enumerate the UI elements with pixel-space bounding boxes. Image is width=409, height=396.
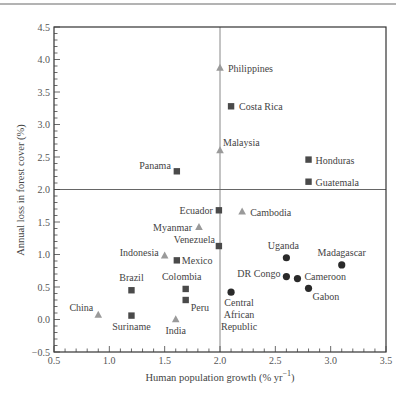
data-point-honduras: Honduras bbox=[305, 155, 354, 166]
point-label: Venezuela bbox=[174, 234, 216, 245]
x-tick-label: 1.0 bbox=[103, 355, 116, 366]
point-label: Costa Rica bbox=[239, 101, 283, 112]
data-point-mexico: Mexico bbox=[174, 255, 213, 266]
circle-marker-icon bbox=[227, 289, 234, 296]
y-axis-label: Annual loss in forest cover (%) bbox=[15, 124, 27, 256]
point-label: Guatemala bbox=[316, 177, 360, 188]
data-point-guatemala: Guatemala bbox=[305, 177, 359, 188]
data-point-venezuela: Venezuela bbox=[174, 234, 222, 249]
data-point-dr-congo: DR Congo bbox=[237, 268, 290, 281]
point-label: Ecuador bbox=[180, 205, 214, 216]
circle-marker-icon bbox=[305, 285, 312, 292]
square-marker-icon bbox=[128, 287, 134, 293]
point-label: Honduras bbox=[316, 155, 355, 166]
y-tick-label: 0.5 bbox=[38, 282, 51, 293]
point-label: Gabon bbox=[313, 291, 340, 302]
point-label: Uganda bbox=[268, 240, 300, 251]
point-label: Cambodia bbox=[250, 207, 292, 218]
y-tick-label: 1.0 bbox=[38, 249, 51, 260]
square-marker-icon bbox=[216, 207, 222, 213]
triangle-marker-icon bbox=[172, 315, 180, 322]
square-marker-icon bbox=[174, 257, 180, 263]
point-label: Mexico bbox=[182, 255, 213, 266]
point-label: Colombia bbox=[162, 271, 202, 282]
point-label: China bbox=[69, 302, 93, 313]
data-point-india: India bbox=[165, 315, 186, 335]
point-label: Panama bbox=[139, 160, 171, 171]
x-axis-label: Human population growth (% yr−1) bbox=[145, 369, 295, 384]
point-label: Myanmar bbox=[153, 222, 193, 233]
point-label: Cameroon bbox=[304, 271, 346, 282]
data-point-central-african-republic: CentralAfricanRepublic bbox=[221, 289, 258, 333]
square-marker-icon bbox=[305, 179, 311, 185]
data-point-madagascar: Madagascar bbox=[318, 247, 367, 269]
y-tick-label: 4.0 bbox=[38, 54, 51, 65]
data-point-colombia: Colombia bbox=[162, 271, 202, 292]
x-tick-label: 0.5 bbox=[48, 355, 61, 366]
axis-ticks: −0.50.00.51.01.52.02.53.03.54.04.50.51.0… bbox=[32, 22, 392, 367]
scatter-chart: −0.50.00.51.01.52.02.53.03.54.04.50.51.0… bbox=[0, 0, 409, 396]
point-label: Malaysia bbox=[223, 137, 260, 148]
triangle-marker-icon bbox=[195, 223, 203, 230]
square-marker-icon bbox=[174, 168, 180, 174]
point-label: African bbox=[224, 309, 255, 320]
x-tick-label: 2.5 bbox=[269, 355, 282, 366]
point-label: Suriname bbox=[112, 321, 151, 332]
point-label: Indonesia bbox=[120, 247, 159, 258]
point-label: Central bbox=[224, 297, 254, 308]
point-label: Philippines bbox=[228, 63, 273, 74]
point-label: India bbox=[165, 325, 186, 336]
x-tick-label: 1.5 bbox=[158, 355, 171, 366]
data-point-cambodia: Cambodia bbox=[238, 207, 291, 218]
circle-marker-icon bbox=[338, 261, 345, 268]
square-marker-icon bbox=[182, 297, 188, 303]
data-point-ecuador: Ecuador bbox=[180, 205, 223, 216]
data-point-cameroon: Cameroon bbox=[294, 271, 346, 283]
data-point-panama: Panama bbox=[139, 160, 180, 174]
triangle-marker-icon bbox=[161, 252, 169, 259]
y-tick-label: 3.5 bbox=[38, 87, 51, 98]
data-point-indonesia: Indonesia bbox=[120, 247, 169, 259]
square-marker-icon bbox=[305, 156, 311, 162]
y-tick-label: 1.5 bbox=[38, 217, 51, 228]
y-tick-label: 3.0 bbox=[38, 119, 51, 130]
circle-marker-icon bbox=[294, 275, 301, 282]
data-point-china: China bbox=[69, 302, 102, 318]
point-label: DR Congo bbox=[237, 268, 280, 279]
x-tick-label: 3.0 bbox=[324, 355, 337, 366]
data-point-philippines: Philippines bbox=[216, 63, 273, 74]
data-point-gabon: Gabon bbox=[305, 285, 339, 303]
point-label: Madagascar bbox=[318, 247, 367, 258]
data-point-myanmar: Myanmar bbox=[153, 222, 203, 233]
y-tick-label: 2.0 bbox=[38, 184, 51, 195]
triangle-marker-icon bbox=[238, 207, 246, 214]
reference-lines bbox=[54, 27, 386, 352]
square-marker-icon bbox=[128, 312, 134, 318]
circle-marker-icon bbox=[283, 254, 290, 261]
square-marker-icon bbox=[228, 103, 234, 109]
data-point-costa-rica: Costa Rica bbox=[228, 101, 283, 112]
data-points: PhilippinesMalaysiaCambodiaMyanmarIndone… bbox=[69, 63, 366, 336]
square-marker-icon bbox=[216, 243, 222, 249]
x-tick-label: 3.5 bbox=[380, 355, 393, 366]
x-tick-label: 2.0 bbox=[214, 355, 227, 366]
data-point-uganda: Uganda bbox=[268, 240, 300, 262]
data-point-malaysia: Malaysia bbox=[216, 137, 260, 154]
triangle-marker-icon bbox=[216, 64, 224, 71]
triangle-marker-icon bbox=[94, 311, 102, 318]
data-point-brazil: Brazil bbox=[119, 272, 144, 293]
point-label: Brazil bbox=[119, 272, 144, 283]
point-label: Peru bbox=[191, 302, 209, 313]
circle-marker-icon bbox=[283, 273, 290, 280]
data-point-peru: Peru bbox=[182, 297, 209, 313]
y-tick-label: 2.5 bbox=[38, 152, 51, 163]
y-tick-label: 0.0 bbox=[38, 314, 51, 325]
point-label: Republic bbox=[221, 321, 258, 332]
y-tick-label: 4.5 bbox=[38, 22, 51, 33]
square-marker-icon bbox=[182, 286, 188, 292]
data-point-suriname: Suriname bbox=[112, 312, 151, 331]
